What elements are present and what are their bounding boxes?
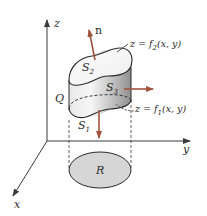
solid-q <box>69 48 132 118</box>
q-label: Q <box>55 92 64 105</box>
s1-label: S1 <box>78 119 90 134</box>
z-axis-label: z <box>53 17 60 30</box>
x-axis-label: x <box>14 198 21 211</box>
normal-label: n <box>95 24 102 37</box>
x-axis <box>13 141 47 196</box>
region-r-label: R <box>95 164 104 177</box>
bottom-surface-equation: z = f1(x, y) <box>134 103 186 117</box>
divergence-theorem-diagram: z y x R S2 S3 S1 Q n z = f2(x, y) z = f1… <box>0 0 207 216</box>
y-axis-label: y <box>182 143 190 156</box>
top-surface-equation: z = f2(x, y) <box>129 38 181 52</box>
